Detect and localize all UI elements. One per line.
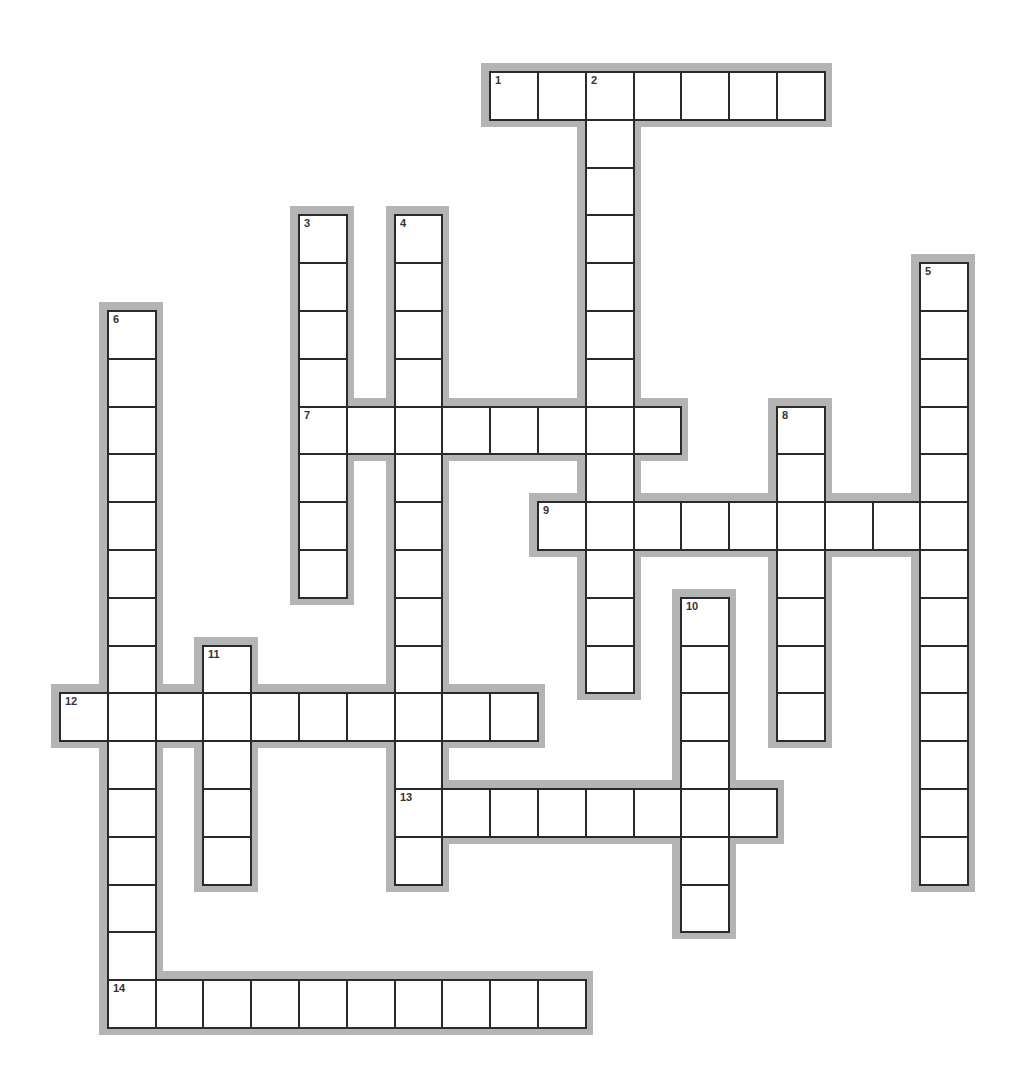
grid-cell[interactable] [919,310,969,360]
grid-cell[interactable] [776,549,826,599]
grid-cell[interactable] [680,692,730,742]
grid-cell[interactable] [633,501,682,551]
grid-cell[interactable] [680,71,730,121]
grid-cell[interactable] [919,501,969,551]
grid-cell[interactable] [298,310,348,360]
grid-cell[interactable] [489,979,539,1029]
grid-cell[interactable] [394,262,443,312]
grid-cell[interactable] [394,836,443,886]
grid-cell[interactable] [585,214,635,264]
grid-cell[interactable] [107,836,157,886]
grid-cell[interactable]: 9 [537,501,587,551]
grid-cell[interactable] [537,979,587,1029]
grid-cell[interactable] [346,979,396,1029]
grid-cell[interactable] [776,597,826,647]
grid-cell[interactable] [680,645,730,694]
grid-cell[interactable]: 12 [59,692,109,742]
grid-cell[interactable] [919,645,969,694]
grid-cell[interactable] [680,884,730,933]
grid-cell[interactable] [250,979,300,1029]
grid-cell[interactable] [298,549,348,599]
grid-cell[interactable]: 7 [298,406,348,455]
grid-cell[interactable] [728,71,778,121]
grid-cell[interactable] [107,645,157,694]
grid-cell[interactable] [107,453,157,503]
grid-cell[interactable] [107,406,157,455]
grid-cell[interactable] [298,453,348,503]
grid-cell[interactable] [441,692,491,742]
grid-cell[interactable] [728,501,778,551]
grid-cell[interactable] [585,788,635,838]
grid-cell[interactable] [633,406,682,455]
grid-cell[interactable]: 2 [585,71,635,121]
grid-cell[interactable] [537,406,587,455]
grid-cell[interactable] [585,549,635,599]
grid-cell[interactable] [585,119,635,169]
grid-cell[interactable] [489,788,539,838]
grid-cell[interactable] [680,501,730,551]
grid-cell[interactable]: 8 [776,406,826,455]
grid-cell[interactable] [585,310,635,360]
grid-cell[interactable] [537,71,587,121]
grid-cell[interactable] [919,549,969,599]
grid-cell[interactable] [202,979,252,1029]
grid-cell[interactable] [394,597,443,647]
grid-cell[interactable]: 5 [919,262,969,312]
grid-cell[interactable] [633,788,682,838]
grid-cell[interactable] [107,358,157,408]
grid-cell[interactable]: 14 [107,979,157,1029]
grid-cell[interactable] [776,645,826,694]
grid-cell[interactable] [824,501,874,551]
grid-cell[interactable] [107,884,157,933]
grid-cell[interactable] [441,788,491,838]
grid-cell[interactable] [250,692,300,742]
grid-cell[interactable] [394,406,443,455]
grid-cell[interactable] [394,358,443,408]
grid-cell[interactable] [202,788,252,838]
grid-cell[interactable]: 6 [107,310,157,360]
grid-cell[interactable] [107,788,157,838]
grid-cell[interactable] [585,358,635,408]
grid-cell[interactable]: 11 [202,645,252,694]
grid-cell[interactable]: 10 [680,597,730,647]
grid-cell[interactable] [680,788,730,838]
grid-cell[interactable] [585,501,635,551]
grid-cell[interactable] [776,501,826,551]
grid-cell[interactable]: 3 [298,214,348,264]
grid-cell[interactable] [919,836,969,886]
grid-cell[interactable] [919,358,969,408]
grid-cell[interactable] [107,549,157,599]
grid-cell[interactable] [107,597,157,647]
grid-cell[interactable] [202,692,252,742]
grid-cell[interactable] [919,692,969,742]
grid-cell[interactable] [107,692,157,742]
grid-cell[interactable] [155,979,204,1029]
grid-cell[interactable] [107,740,157,790]
grid-cell[interactable]: 4 [394,214,443,264]
grid-cell[interactable] [394,979,443,1029]
grid-cell[interactable] [633,71,682,121]
grid-cell[interactable] [919,597,969,647]
grid-cell[interactable] [202,836,252,886]
grid-cell[interactable] [680,740,730,790]
grid-cell[interactable] [441,979,491,1029]
grid-cell[interactable] [728,788,778,838]
grid-cell[interactable] [346,406,396,455]
grid-cell[interactable] [394,310,443,360]
grid-cell[interactable] [394,692,443,742]
grid-cell[interactable] [298,262,348,312]
grid-cell[interactable] [919,453,969,503]
grid-cell[interactable] [298,692,348,742]
grid-cell[interactable] [919,740,969,790]
grid-cell[interactable] [394,645,443,694]
grid-cell[interactable] [585,645,635,694]
grid-cell[interactable] [346,692,396,742]
grid-cell[interactable] [202,740,252,790]
grid-cell[interactable] [872,501,921,551]
grid-cell[interactable] [537,788,587,838]
grid-cell[interactable] [298,979,348,1029]
grid-cell[interactable] [585,262,635,312]
grid-cell[interactable] [585,597,635,647]
grid-cell[interactable]: 1 [489,71,539,121]
grid-cell[interactable] [585,167,635,216]
